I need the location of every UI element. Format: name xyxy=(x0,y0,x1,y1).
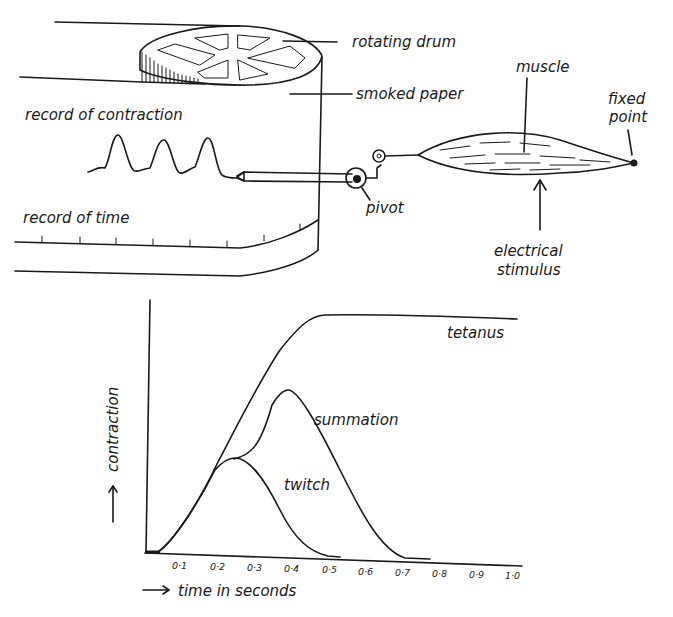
pivot-label: pivot xyxy=(365,199,405,217)
record-of-time-label: record of time xyxy=(23,209,129,227)
x-tick-labels: 0·1 0·2 0·3 0·4 0·5 0·6 0·7 0·8 0·9 1·0 xyxy=(172,560,520,581)
y-axis xyxy=(146,300,150,553)
fixed-point-leader xyxy=(628,130,632,155)
record-of-contraction-label: record of contraction xyxy=(25,106,183,124)
svg-text:0·7: 0·7 xyxy=(395,567,410,578)
smoked-paper-label: smoked paper xyxy=(356,85,464,103)
y-axis-label: contraction xyxy=(104,387,122,472)
summation-label: summation xyxy=(314,411,398,429)
electrical-stimulus-label-line1: electrical xyxy=(494,242,564,260)
tetanus-label: tetanus xyxy=(447,324,504,342)
lever-arm-bottom xyxy=(237,178,352,182)
svg-text:0·5: 0·5 xyxy=(322,564,337,575)
kymograph-apparatus: rotating drum smoked paper record of con… xyxy=(15,22,648,279)
connecting-thread xyxy=(385,155,418,156)
twitch-label: twitch xyxy=(284,476,330,494)
drum-side-hatching xyxy=(142,52,198,84)
drum-right-edge xyxy=(318,57,322,250)
electrical-stimulus-label-line2: stimulus xyxy=(497,261,561,279)
svg-text:0·6: 0·6 xyxy=(358,566,373,577)
paper-top-edge xyxy=(55,22,240,26)
x-axis-label: time in seconds xyxy=(178,582,297,600)
y-axis-label-group: contraction xyxy=(104,387,122,522)
hook-ring xyxy=(373,150,385,162)
muscle-label: muscle xyxy=(516,58,570,76)
lever-bracket xyxy=(366,165,381,178)
fixed-point-dot xyxy=(631,160,638,167)
twitch-curve xyxy=(158,458,340,557)
muscle-leader xyxy=(524,78,527,152)
svg-text:0·3: 0·3 xyxy=(247,562,262,573)
muscle-contraction-figure: rotating drum smoked paper record of con… xyxy=(0,0,673,617)
drum-bottom-edge xyxy=(15,250,318,276)
contraction-trace xyxy=(88,135,237,178)
pivot-point xyxy=(353,175,361,183)
rotating-drum-leader xyxy=(283,41,337,42)
lever-arm-top xyxy=(237,172,352,176)
svg-text:0·4: 0·4 xyxy=(284,563,299,574)
fixed-point-label-line1: fixed xyxy=(608,90,646,108)
svg-text:1·0: 1·0 xyxy=(505,570,520,581)
svg-text:0·2: 0·2 xyxy=(210,561,225,572)
rotating-drum-label: rotating drum xyxy=(352,33,456,51)
contraction-chart: 0·1 0·2 0·3 0·4 0·5 0·6 0·7 0·8 0·9 1·0 … xyxy=(104,300,522,600)
drum-top xyxy=(140,26,322,85)
fixed-point-label-line2: point xyxy=(608,108,648,126)
svg-text:0·1: 0·1 xyxy=(172,560,187,571)
svg-text:0·8: 0·8 xyxy=(432,568,447,579)
svg-text:0·9: 0·9 xyxy=(469,569,484,580)
tetanus-curve xyxy=(158,315,517,552)
